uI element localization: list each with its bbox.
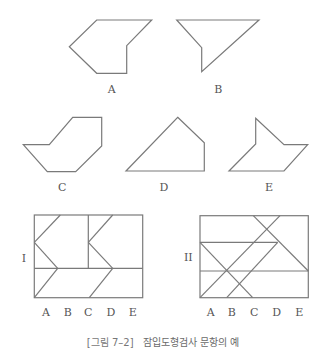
option-label-b: B <box>64 306 72 319</box>
caption-text: 잠입도형검사 문항의 예 <box>143 337 239 348</box>
complex-figure-label: II <box>184 251 193 264</box>
figure-shape <box>229 118 308 171</box>
simple-figures-group: ABCDE <box>23 20 307 194</box>
figure-shape <box>69 20 151 73</box>
option-label-d: D <box>107 306 116 319</box>
option-label-a: A <box>41 306 51 319</box>
option-label-c: C <box>250 306 258 319</box>
simple-figure-d: D <box>126 117 204 194</box>
caption-number: [그림 7–2] <box>87 337 134 348</box>
option-label-e: E <box>295 306 303 319</box>
figure-shape <box>23 117 101 171</box>
figure-line <box>34 242 57 268</box>
figure-label: A <box>107 83 117 96</box>
embedded-figures-diagram: ABCDE IABCDEIIABCDE <box>0 0 326 354</box>
complex-figures-group: IABCDEIIABCDE <box>22 215 308 319</box>
simple-figure-b: B <box>177 20 259 96</box>
simple-figure-a: A <box>69 20 151 96</box>
figure-line <box>253 216 308 271</box>
figure-line <box>34 215 60 242</box>
figure-line <box>200 216 280 298</box>
figure-line <box>89 268 112 297</box>
figure-shape <box>126 117 204 171</box>
figure-line <box>88 242 112 268</box>
figure-label: D <box>160 181 169 194</box>
option-label-d: D <box>272 306 281 319</box>
figure-frame <box>200 216 308 298</box>
option-label-b: B <box>228 306 236 319</box>
figure-line <box>34 268 57 297</box>
complex-figure-label: I <box>22 252 26 265</box>
figure-label: E <box>265 181 273 194</box>
simple-figure-e: E <box>229 118 308 194</box>
figure-label: C <box>58 181 66 194</box>
simple-figure-c: C <box>23 117 101 194</box>
option-label-a: A <box>206 306 216 319</box>
option-label-e: E <box>129 306 137 319</box>
figure-caption: [그림 7–2] 잠입도형검사 문항의 예 <box>0 334 326 349</box>
complex-figure-ii: IIABCDE <box>184 216 308 319</box>
option-label-c: C <box>84 306 92 319</box>
figure-line <box>88 215 112 242</box>
complex-figure-i: IABCDE <box>22 215 143 319</box>
figure-shape <box>177 20 259 72</box>
figure-line <box>227 242 278 297</box>
figure-label: B <box>214 83 222 96</box>
